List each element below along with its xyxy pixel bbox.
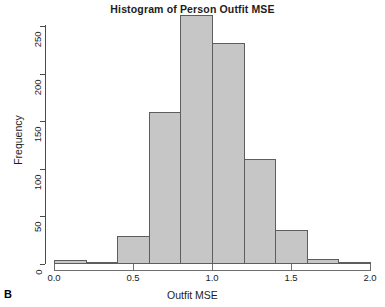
x-axis-tick bbox=[133, 264, 134, 270]
histogram-bar bbox=[180, 15, 213, 264]
histogram-figure: Histogram of Person Outfit MSE Frequency… bbox=[0, 0, 385, 307]
page-title: Histogram of Person Outfit MSE bbox=[0, 3, 385, 15]
x-axis-title: Outfit MSE bbox=[0, 289, 385, 301]
y-axis-tick-label: 150 bbox=[33, 127, 44, 143]
x-axis-tick bbox=[370, 264, 371, 270]
x-axis-line bbox=[54, 270, 371, 271]
histogram-bar bbox=[117, 236, 150, 264]
y-axis-tick-label: 100 bbox=[33, 174, 44, 190]
x-axis-tick-label: 0.5 bbox=[113, 272, 153, 283]
x-axis-tick bbox=[212, 264, 213, 270]
histogram-bar bbox=[307, 259, 340, 264]
plot-area bbox=[54, 20, 370, 264]
x-axis-tick bbox=[291, 264, 292, 270]
histogram-bar bbox=[275, 230, 308, 264]
histogram-bar bbox=[338, 262, 371, 265]
y-axis-line bbox=[45, 25, 46, 264]
histogram-bar bbox=[86, 262, 119, 265]
x-axis-tick-label: 0.0 bbox=[34, 272, 74, 283]
y-axis-tick-label: 250 bbox=[33, 32, 44, 48]
histogram-bar bbox=[149, 112, 182, 264]
y-axis-tick bbox=[40, 26, 45, 27]
histogram-bar bbox=[212, 43, 245, 264]
histogram-bar bbox=[244, 159, 277, 264]
y-axis-tick bbox=[40, 216, 45, 217]
x-axis-tick-label: 1.5 bbox=[271, 272, 311, 283]
y-axis-tick bbox=[40, 121, 45, 122]
panel-label: B bbox=[4, 288, 12, 300]
y-axis-tick-label: 200 bbox=[33, 79, 44, 95]
x-axis-tick-label: 1.0 bbox=[192, 272, 232, 283]
y-axis-tick-label: 50 bbox=[33, 222, 44, 233]
x-axis-tick bbox=[54, 264, 55, 270]
x-axis-tick-label: 2.0 bbox=[350, 272, 385, 283]
y-axis-tick bbox=[40, 169, 45, 170]
y-axis-title: Frequency bbox=[12, 70, 24, 210]
histogram-bar bbox=[54, 260, 87, 264]
y-axis-tick bbox=[40, 264, 45, 265]
y-axis-tick bbox=[40, 74, 45, 75]
